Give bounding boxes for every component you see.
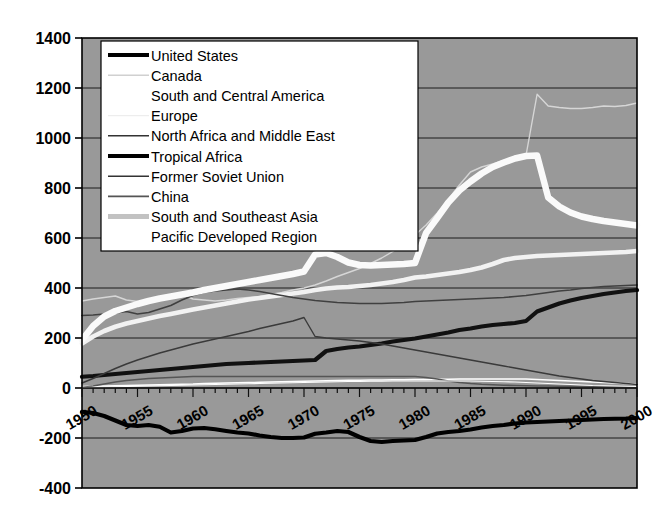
y-tick-label: 1000 [35, 130, 71, 147]
y-tick-label: 0 [62, 380, 71, 397]
legend-label-north-africa-and-middle-east: North Africa and Middle East [151, 128, 335, 144]
y-tick-label: 1200 [35, 80, 71, 97]
y-tick-label: -400 [39, 480, 71, 497]
y-tick-label: 600 [44, 230, 71, 247]
y-tick-label: 1400 [35, 30, 71, 47]
chart-legend: United StatesCanadaSouth and Central Ame… [101, 41, 418, 251]
y-tick-label: 800 [44, 180, 71, 197]
legend-label-south-and-southeast-asia: South and Southeast Asia [151, 209, 319, 225]
y-tick-label: 200 [44, 330, 71, 347]
legend-label-china: China [151, 189, 190, 205]
legend-label-south-and-central-america: South and Central America [151, 88, 325, 104]
y-tick-label: 400 [44, 280, 71, 297]
line-chart-figure: -400-2000200400600800100012001400 195019… [0, 0, 660, 525]
legend-label-former-soviet-union: Former Soviet Union [151, 169, 284, 185]
y-tick-label: -200 [39, 430, 71, 447]
chart-page: -400-2000200400600800100012001400 195019… [0, 0, 660, 525]
legend-label-canada: Canada [151, 68, 203, 84]
legend-label-europe: Europe [151, 108, 198, 124]
legend-label-pacific-developed-region: Pacific Developed Region [151, 229, 317, 245]
legend-label-tropical-africa: Tropical Africa [151, 149, 243, 165]
legend-label-united-states: United States [151, 48, 238, 64]
